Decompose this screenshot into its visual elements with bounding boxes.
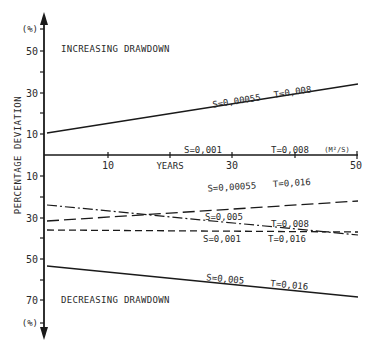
series3-label-s: S=0,005 — [205, 212, 243, 222]
y-unit-bottom: (%) — [22, 318, 38, 328]
y-tick-up-10: 10 — [26, 129, 38, 140]
baseline-label-unit: (M²/S) — [324, 146, 349, 154]
x-tick-30: 30 — [226, 160, 238, 171]
series4-label-s: S=0,001 — [203, 234, 241, 244]
series1-label-s: S=0,00055 — [212, 92, 262, 110]
series-line-s00055-t016 — [47, 201, 358, 221]
y-tick-up-30: 30 — [26, 88, 38, 99]
y-axis-arrow-down-icon — [40, 327, 48, 340]
y-axis-title: PERCENTAGE DEVIATION — [13, 96, 23, 214]
series2-label-s: S=0,00055 — [207, 181, 256, 194]
y-tick-down-10: 10 — [26, 171, 38, 182]
x-tick-10: 10 — [102, 160, 114, 171]
y-tick-down-50: 50 — [26, 254, 38, 265]
series1-label-t: T=0,008 — [273, 84, 312, 100]
series2-label-t: T=0,016 — [273, 177, 311, 189]
series3-label-t: T=0,008 — [271, 219, 309, 229]
y-tick-down-30: 30 — [26, 213, 38, 224]
y-unit-top: (%) — [22, 24, 38, 34]
baseline-label-s: S=0,001 — [184, 145, 222, 155]
series5-label-s: S=0,005 — [206, 272, 245, 286]
series4-label-t: T=0,016 — [268, 234, 306, 244]
series5-label-t: T=0,016 — [270, 278, 309, 292]
x-axis-label-years: YEARS — [156, 161, 183, 171]
y-axis-arrow-up-icon — [40, 12, 48, 25]
x-tick-50: 50 — [350, 160, 362, 171]
increasing-drawdown-label: INCREASING DRAWDOWN — [61, 44, 170, 54]
drawdown-chart: (%) 50 30 10 10 30 50 70 (%) PERCENTAGE … — [0, 0, 374, 354]
y-tick-down-70: 70 — [26, 295, 38, 306]
decreasing-drawdown-label: DECREASING DRAWDOWN — [61, 295, 170, 305]
baseline-label-t: T=0,008 — [271, 145, 309, 155]
series-line-s005-t016 — [47, 266, 358, 297]
y-tick-up-50: 50 — [26, 46, 38, 57]
